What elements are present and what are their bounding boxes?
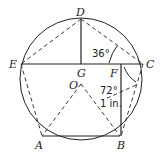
arc-72-icon (124, 67, 136, 82)
label-A: A (34, 139, 43, 152)
angle-72-label: 72° (100, 85, 118, 96)
length-label: 1 in. (100, 98, 122, 109)
angle-36-label: 36° (92, 48, 110, 59)
label-O: O (69, 79, 78, 92)
pentagon-diagram: D E C G F O A B 36° 72° 1 in. (0, 0, 160, 155)
arc-36-icon (109, 46, 117, 63)
label-B: B (116, 139, 125, 152)
dashed-DC (81, 19, 143, 64)
label-E: E (8, 58, 17, 71)
dashed-CB (121, 64, 143, 136)
label-C: C (146, 58, 155, 71)
label-D: D (75, 6, 85, 19)
label-G: G (77, 67, 86, 80)
label-F: F (109, 67, 118, 80)
